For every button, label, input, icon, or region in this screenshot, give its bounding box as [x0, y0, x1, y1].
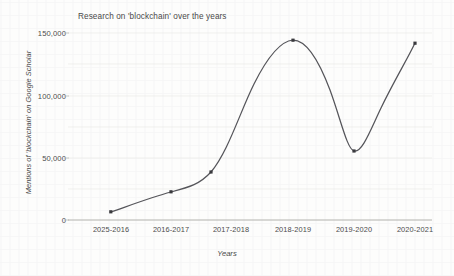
grid-lines: [68, 33, 432, 189]
y-tick-marks: [64, 33, 69, 220]
data-point-2025-2016: [109, 210, 112, 213]
data-point-2019-2020: [352, 149, 355, 152]
chart-figure: Research on 'blockchain' over the years …: [0, 0, 454, 276]
data-point-2017-2018: [209, 170, 212, 173]
data-point-2020-2021: [413, 42, 416, 45]
data-point-markers: [109, 39, 416, 214]
data-point-2018-2019: [291, 39, 294, 42]
x-axis-title: Years: [0, 249, 454, 258]
data-point-2016-2017: [169, 190, 172, 193]
plot-area: [0, 0, 454, 276]
data-line-blockchain-mentions: [111, 40, 415, 212]
